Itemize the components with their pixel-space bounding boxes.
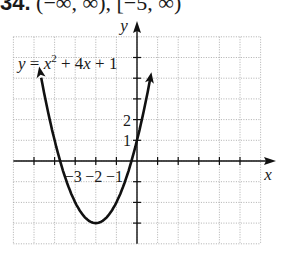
- equation-label: y = x2 + 4x + 1: [16, 52, 117, 73]
- parabola-graph: yxy = x2 + 4x + 1−3−2−121: [0, 0, 284, 253]
- y-axis-label: y: [118, 16, 128, 35]
- x-tick-label: −2: [85, 168, 102, 185]
- y-tick-label: 1: [123, 132, 131, 149]
- x-tick-label: −1: [106, 168, 123, 185]
- y-tick-label: 2: [123, 112, 131, 129]
- x-axis-label: x: [263, 165, 272, 184]
- x-tick-label: −3: [65, 168, 82, 185]
